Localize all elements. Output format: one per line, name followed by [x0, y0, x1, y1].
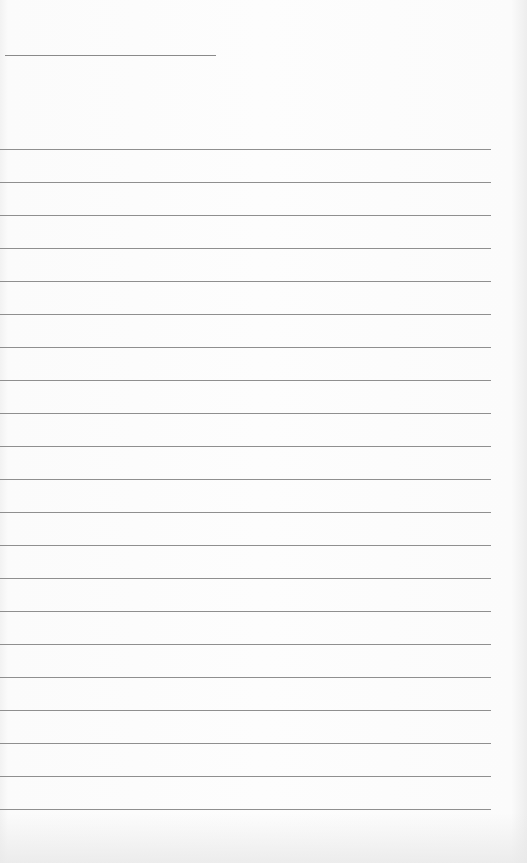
ruled-line: [0, 347, 491, 348]
ruled-line: [0, 314, 491, 315]
ruled-line: [0, 380, 491, 381]
ruled-line: [0, 611, 491, 612]
ruled-line: [0, 413, 491, 414]
ruled-line: [0, 512, 491, 513]
ruled-line: [0, 578, 491, 579]
ruled-line: [0, 644, 491, 645]
ruled-line: [0, 446, 491, 447]
header-name-line: [5, 55, 216, 56]
ruled-line: [0, 809, 491, 810]
ruled-line: [0, 545, 491, 546]
ruled-line: [0, 710, 491, 711]
ruled-line: [0, 149, 491, 150]
ruled-line: [0, 248, 491, 249]
ruled-line: [0, 743, 491, 744]
lined-paper-page: [0, 0, 527, 863]
ruled-line: [0, 677, 491, 678]
ruled-line: [0, 479, 491, 480]
ruled-line: [0, 776, 491, 777]
page-shadow: [0, 813, 527, 863]
ruled-line: [0, 182, 491, 183]
ruled-line: [0, 281, 491, 282]
ruled-line: [0, 215, 491, 216]
